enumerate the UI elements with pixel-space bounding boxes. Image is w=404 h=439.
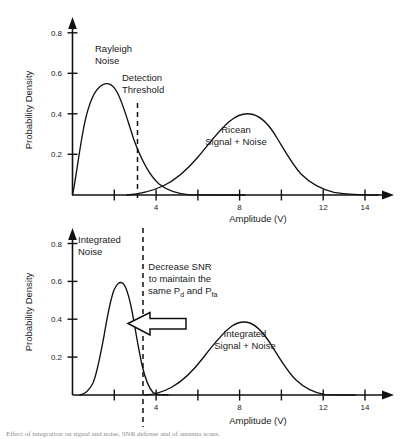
top-y-axis-arrowhead <box>68 17 77 29</box>
decrease-snr-label-line1: Decrease SNR <box>148 261 211 272</box>
ricean-label-line1: Ricean <box>221 124 251 135</box>
integrated-noise-curve <box>80 282 168 395</box>
bottom-y-axis-arrowhead <box>68 228 77 240</box>
detection-threshold-label-line2: Threshold <box>122 84 164 95</box>
top-x-axis-title: Amplitude (V) <box>229 213 287 224</box>
bottom-x-axis-title: Amplitude (V) <box>229 415 287 426</box>
figure-container: 0.8 0.6 0.4 0.2 4 8 12 14 Rayleigh Noise… <box>0 0 404 439</box>
bottom-xtick-8: 8 <box>237 403 242 412</box>
bottom-ytick-08: 0.8 <box>51 240 63 249</box>
top-xtick-12: 12 <box>319 203 328 212</box>
bottom-xtick-4: 4 <box>154 403 159 412</box>
top-ytick-04: 0.4 <box>51 110 63 119</box>
integrated-noise-label-line2: Noise <box>78 246 102 257</box>
top-xtick-8: 8 <box>237 203 242 212</box>
integrated-signal-noise-label-line1: Integrated <box>224 328 267 339</box>
figure-caption: Effect of integration on signal and nois… <box>6 430 398 438</box>
bottom-ytick-02: 0.2 <box>51 353 63 362</box>
bottom-ytick-04: 0.4 <box>51 315 63 324</box>
bottom-ytick-06: 0.6 <box>51 277 63 286</box>
top-ytick-08: 0.8 <box>51 29 63 38</box>
top-ytick-06: 0.6 <box>51 69 63 78</box>
top-xtick-4: 4 <box>154 203 159 212</box>
bottom-xtick-14: 14 <box>361 403 370 412</box>
bottom-xtick-12: 12 <box>319 403 328 412</box>
decrease-snr-label-line3: same Pd and Pfa <box>148 285 218 298</box>
snr-line3-same-pd: same P <box>148 285 180 296</box>
rayleigh-noise-label-line1: Rayleigh <box>95 43 132 54</box>
top-xtick-14: 14 <box>361 203 370 212</box>
top-x-axis-arrowhead <box>382 191 394 200</box>
integrated-signal-noise-label-line2: Signal + Noise <box>214 340 276 351</box>
snr-subscript-fa: fa <box>212 291 218 298</box>
decrease-snr-label-line2: to maintain the <box>149 273 211 284</box>
integrated-noise-label-line1: Integrated <box>78 234 121 245</box>
bottom-chart: 0.8 0.6 0.4 0.2 4 8 12 14 Integrated Noi… <box>23 228 394 427</box>
rayleigh-noise-label-line2: Noise <box>95 55 119 66</box>
ricean-curve <box>127 114 378 195</box>
detection-threshold-label-line1: Detection <box>122 72 162 83</box>
dual-pdf-chart: 0.8 0.6 0.4 0.2 4 8 12 14 Rayleigh Noise… <box>0 0 404 439</box>
decrease-snr-arrow-icon <box>128 313 186 336</box>
top-ytick-02: 0.2 <box>51 150 63 159</box>
snr-line3-and-p: and P <box>184 285 211 296</box>
ricean-label-line2: Signal + Noise <box>205 136 267 147</box>
bottom-x-axis-arrowhead <box>382 391 394 400</box>
top-chart: 0.8 0.6 0.4 0.2 4 8 12 14 Rayleigh Noise… <box>23 17 394 224</box>
top-y-axis-title: Probability Density <box>23 70 34 149</box>
bottom-y-axis-title: Probability Density <box>23 272 34 351</box>
